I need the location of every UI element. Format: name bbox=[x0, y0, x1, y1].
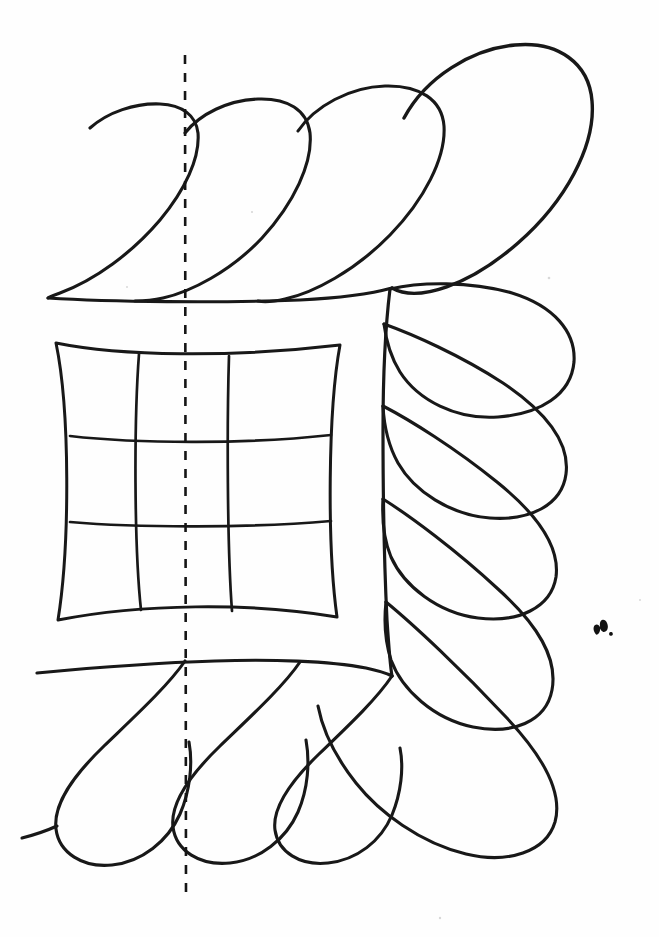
feather-top-1 bbox=[48, 104, 198, 298]
feather-right-4 bbox=[383, 499, 553, 729]
bottom-left-tail-stroke bbox=[22, 826, 57, 838]
paper-speck bbox=[548, 277, 551, 280]
paper-speck bbox=[126, 286, 128, 288]
feather-bottom-3 bbox=[275, 676, 402, 863]
feather-group-bottom-row bbox=[22, 660, 402, 865]
paper-speck bbox=[251, 211, 253, 213]
feather-group-right-column bbox=[318, 284, 574, 858]
handwritten-mark-dot bbox=[609, 632, 614, 637]
feather-right-3 bbox=[383, 406, 557, 619]
feather-top-2 bbox=[135, 99, 310, 301]
grid-vertical-divider-2 bbox=[228, 356, 232, 611]
grid-vertical-divider-1 bbox=[135, 354, 141, 610]
feather-right-5 bbox=[318, 602, 557, 857]
handwritten-8-glyph bbox=[592, 619, 610, 635]
feather-top-3 bbox=[258, 86, 444, 302]
paper-speck bbox=[439, 917, 441, 919]
feather-bottom-2 bbox=[173, 662, 308, 863]
feather-bottom-1 bbox=[56, 661, 191, 865]
grid-horizontal-divider-2 bbox=[70, 521, 331, 526]
pattern-sheet: Quilting Feather and Nine-Patch Grid Pat… bbox=[0, 0, 659, 937]
top-horizontal-spine-line bbox=[48, 288, 392, 302]
feather-right-1 bbox=[384, 284, 574, 417]
feather-group-top-row bbox=[48, 45, 592, 302]
handwritten-ink-mark bbox=[592, 618, 614, 640]
nine-patch-grid-block bbox=[56, 343, 340, 620]
pattern-drawing-canvas bbox=[0, 0, 659, 937]
feather-top-4 bbox=[392, 45, 592, 294]
paper-speck bbox=[639, 599, 641, 601]
grid-outer-frame bbox=[56, 343, 340, 620]
bottom-horizontal-spine-line bbox=[37, 660, 392, 676]
grid-horizontal-divider-1 bbox=[70, 435, 331, 442]
